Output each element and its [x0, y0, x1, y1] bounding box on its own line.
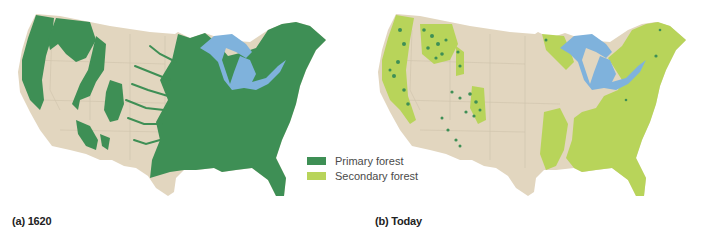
map-1620 [0, 0, 340, 205]
legend: Primary forest Secondary forest [307, 153, 418, 183]
caption-1620: (a) 1620 [12, 215, 51, 227]
legend-label: Secondary forest [335, 170, 418, 182]
legend-item-primary-forest: Primary forest [307, 153, 418, 168]
caption-today: (b) Today [375, 215, 422, 227]
legend-label: Primary forest [335, 155, 403, 167]
secondary-forest-swatch [307, 172, 326, 180]
legend-item-secondary-forest: Secondary forest [307, 168, 418, 183]
primary-forest-swatch [307, 157, 326, 165]
